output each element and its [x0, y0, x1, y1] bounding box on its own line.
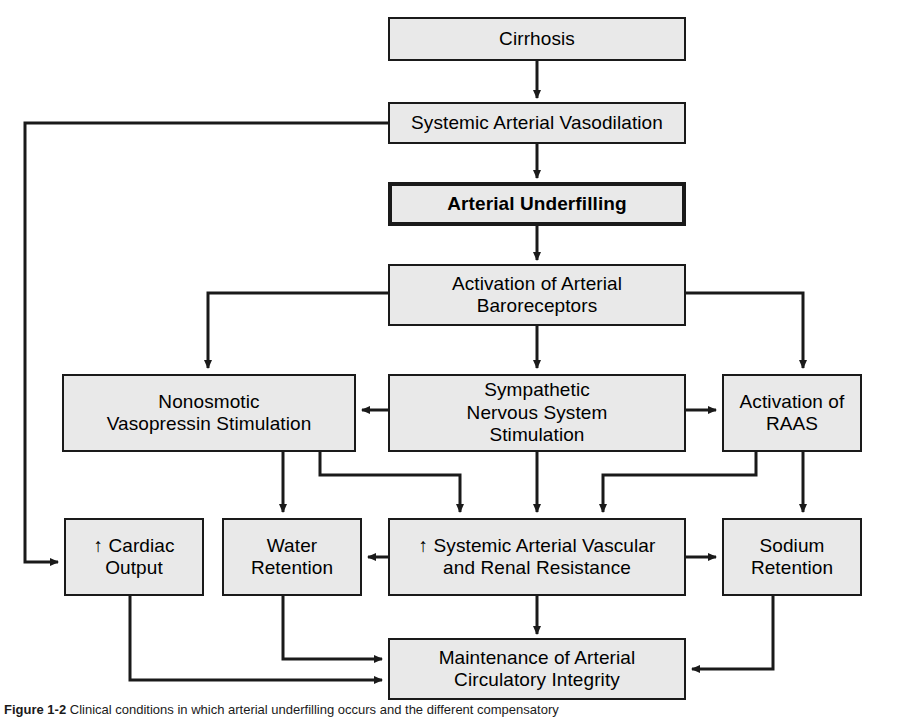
node-nonosmotic-vasopressin-stimulation[interactable]: Nonosmotic Vasopressin Stimulation — [62, 374, 356, 452]
node-label: Arterial Underfilling — [447, 193, 626, 215]
node-sympathetic-nervous-system-stimulation[interactable]: Sympathetic Nervous System Stimulation — [388, 374, 686, 452]
node-sodium-retention[interactable]: Sodium Retention — [722, 518, 862, 596]
edge-raas-to-vascular-resistance — [603, 452, 756, 512]
node-label: Cirrhosis — [499, 28, 575, 50]
node-activation-of-raas[interactable]: Activation of RAAS — [722, 374, 862, 452]
node-label: Nonosmotic Vasopressin Stimulation — [107, 391, 312, 436]
node-label: ↑ Systemic Arterial Vascular and Renal R… — [419, 535, 656, 580]
node-cardiac-output[interactable]: ↑ Cardiac Output — [64, 518, 204, 596]
figure-caption-text: Clinical conditions in which arterial un… — [70, 702, 559, 717]
figure-container: Cirrhosis Systemic Arterial Vasodilation… — [0, 0, 911, 719]
edge-nonosmotic-to-vascular-resistance — [320, 452, 460, 512]
node-water-retention[interactable]: Water Retention — [222, 518, 362, 596]
node-label: Water Retention — [251, 535, 333, 580]
node-maintenance-of-arterial-circulatory-integrity[interactable]: Maintenance of Arterial Circulatory Inte… — [388, 638, 686, 700]
node-label: Activation of RAAS — [740, 391, 845, 436]
node-label: Maintenance of Arterial Circulatory Inte… — [439, 647, 636, 692]
edge-baroreceptors-to-nonosmotic — [208, 293, 388, 368]
node-systemic-arterial-vascular-renal-resistance[interactable]: ↑ Systemic Arterial Vascular and Renal R… — [388, 518, 686, 596]
node-arterial-underfilling[interactable]: Arterial Underfilling — [388, 182, 686, 226]
figure-caption: Figure 1-2 Clinical conditions in which … — [4, 701, 907, 719]
node-cirrhosis[interactable]: Cirrhosis — [388, 17, 686, 61]
edge-sodium-retention-to-maintenance — [692, 596, 773, 669]
node-label: Sympathetic Nervous System Stimulation — [467, 379, 608, 446]
figure-caption-number: Figure 1-2 — [4, 702, 66, 717]
edge-cardiac-output-to-maintenance — [130, 596, 382, 680]
node-label: ↑ Cardiac Output — [93, 535, 174, 580]
node-label: Sodium Retention — [751, 535, 833, 580]
edge-water-retention-to-maintenance — [283, 596, 382, 659]
node-label: Systemic Arterial Vasodilation — [411, 112, 663, 134]
node-activation-of-arterial-baroreceptors[interactable]: Activation of Arterial Baroreceptors — [388, 264, 686, 326]
node-label: Activation of Arterial Baroreceptors — [452, 273, 622, 318]
edge-baroreceptors-to-raas — [686, 293, 803, 368]
node-systemic-arterial-vasodilation[interactable]: Systemic Arterial Vasodilation — [388, 102, 686, 144]
edge-vasodilation-to-cardiac-output — [25, 123, 388, 562]
